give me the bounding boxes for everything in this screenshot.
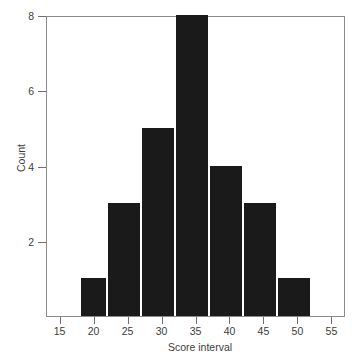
histogram-bar	[210, 166, 242, 317]
x-axis-tick	[60, 317, 61, 324]
x-axis-tick-label: 35	[181, 326, 211, 337]
histogram-bar	[244, 203, 276, 316]
y-axis-tick	[38, 167, 46, 168]
y-axis-tick-label: 8	[8, 11, 34, 22]
y-axis-tick-label: 2	[8, 237, 34, 248]
histogram-bar	[278, 278, 310, 316]
x-axis-tick	[263, 317, 264, 324]
y-axis-tick	[38, 91, 46, 92]
x-axis-tick-label: 15	[45, 326, 75, 337]
y-axis-tick	[38, 16, 46, 17]
x-axis-tick	[229, 317, 230, 324]
x-axis-tick	[94, 317, 95, 324]
x-axis-title: Score interval	[0, 341, 354, 353]
x-axis-tick-label: 55	[316, 326, 346, 337]
plot-area	[46, 16, 345, 317]
y-axis-tick-label: 6	[8, 86, 34, 97]
x-axis-tick-label: 30	[147, 326, 177, 337]
x-axis-tick-label: 45	[248, 326, 278, 337]
x-axis-tick-label: 40	[214, 326, 244, 337]
x-axis-tick-label: 20	[79, 326, 109, 337]
x-axis-tick	[297, 317, 298, 324]
x-axis-tick	[128, 317, 129, 324]
x-axis-tick-label: 50	[282, 326, 312, 337]
histogram-bar	[176, 15, 208, 316]
x-axis-tick	[196, 317, 197, 324]
y-axis-tick-label: 4	[8, 162, 34, 173]
x-axis-tick	[331, 317, 332, 324]
x-axis-tick	[162, 317, 163, 324]
x-axis-tick-label: 25	[113, 326, 143, 337]
histogram-bar	[108, 203, 140, 316]
histogram-bar	[142, 128, 174, 316]
y-axis-title: Count	[15, 128, 27, 188]
histogram-chart: Count 2468 152025303540455055 Score inte…	[0, 0, 354, 359]
bars-layer	[47, 17, 344, 316]
y-axis-tick	[38, 242, 46, 243]
histogram-bar	[81, 278, 106, 316]
